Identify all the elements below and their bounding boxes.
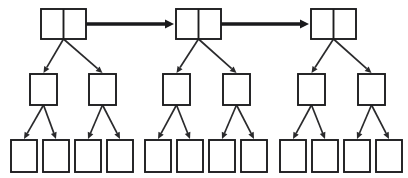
root-node-group-2[interactable]	[176, 9, 221, 39]
child-connector-group-2-mid0-leaf-0	[158, 105, 177, 139]
child-connector-group-2-mid0-leaf-1	[177, 105, 191, 139]
root-node-group-3[interactable]	[311, 9, 356, 39]
leaf-node-box-2[interactable]	[312, 140, 338, 172]
child-connector-group-3-root-mid-0	[312, 39, 334, 73]
child-connector-group-1-root-mid-1	[64, 39, 103, 73]
child-connector-line	[225, 105, 237, 133]
sibling-link-root-1-to-root-2	[86, 19, 174, 28]
sibling-link-root-2-to-root-3	[221, 19, 309, 28]
child-connector-group-1-mid1-leaf-0	[88, 105, 103, 139]
leaf-node-box-1[interactable]	[145, 140, 171, 172]
child-connector-group-3-root-mid-1	[334, 39, 372, 73]
middle-node-box-1[interactable]	[298, 74, 325, 105]
child-connector-line	[372, 105, 387, 133]
child-connector-arrowhead	[51, 132, 57, 139]
leaf-node-box-3[interactable]	[75, 140, 101, 172]
middle-node-box-1[interactable]	[163, 74, 190, 105]
child-connector-group-2-root-mid-1	[199, 39, 237, 73]
child-connector-group-2-root-mid-0	[177, 39, 199, 73]
leaf-node-box-4[interactable]	[376, 140, 402, 172]
child-connector-group-2-mid1-leaf-0	[222, 105, 237, 139]
child-connector-group-1-root-mid-0	[44, 39, 64, 73]
child-connector-line	[180, 39, 198, 68]
middle-node-box-1[interactable]	[30, 74, 57, 105]
child-connector-line	[103, 105, 118, 133]
leaf-node-box-4[interactable]	[241, 140, 267, 172]
child-connector-line	[237, 105, 252, 133]
child-connector-line	[44, 105, 54, 133]
leaf-node-box-2[interactable]	[177, 140, 203, 172]
diagram-svg	[0, 0, 408, 178]
child-connector-group-2-mid1-leaf-1	[237, 105, 255, 139]
child-connector-line	[47, 39, 64, 67]
middle-node-box-2[interactable]	[223, 74, 250, 105]
child-connector-line	[91, 105, 103, 133]
child-connector-line	[296, 105, 311, 133]
child-connector-line	[64, 39, 98, 69]
child-connector-group-3-mid0-leaf-1	[312, 105, 326, 139]
leaf-node-box-1[interactable]	[11, 140, 37, 172]
leaf-node-box-3[interactable]	[344, 140, 370, 172]
leaf-node-box-4[interactable]	[107, 140, 133, 172]
child-connector-line	[312, 105, 323, 133]
leaf-node-box-3[interactable]	[209, 140, 235, 172]
child-connector-line	[199, 39, 232, 69]
middle-node-box-2[interactable]	[89, 74, 116, 105]
root-node-group-1[interactable]	[41, 9, 86, 39]
child-connector-line	[360, 105, 372, 133]
sibling-link-arrowhead	[300, 19, 309, 28]
leaf-node-box-1[interactable]	[280, 140, 306, 172]
child-connector-line	[27, 105, 43, 133]
child-connector-line	[315, 39, 333, 68]
child-connector-line	[334, 39, 367, 69]
child-connector-line	[161, 105, 176, 133]
child-connector-group-3-mid1-leaf-1	[372, 105, 390, 139]
leaf-node-box-2[interactable]	[43, 140, 69, 172]
child-connector-line	[177, 105, 188, 133]
child-connector-group-1-mid0-leaf-1	[44, 105, 57, 139]
child-connector-group-1-mid1-leaf-1	[103, 105, 121, 139]
child-connector-group-1-mid0-leaf-0	[24, 105, 44, 139]
child-connector-group-3-mid1-leaf-0	[357, 105, 372, 139]
middle-node-box-2[interactable]	[358, 74, 385, 105]
sibling-link-arrowhead	[165, 19, 174, 28]
diagram-canvas	[0, 0, 408, 178]
child-connector-group-3-mid0-leaf-0	[293, 105, 312, 139]
